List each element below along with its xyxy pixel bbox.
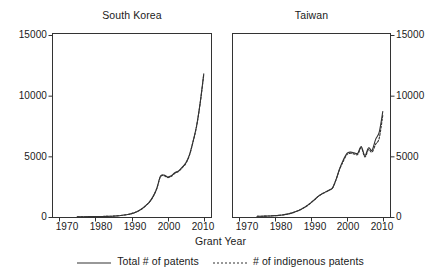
legend-label-indigenous: # of indigenous patents	[253, 255, 364, 267]
legend-line-dotted-icon	[213, 257, 247, 265]
chart-figure: South Korea Taiwan 15000 10000 5000 0 15…	[0, 0, 441, 279]
series-line-indigenous	[77, 74, 203, 216]
legend-label-total: Total # of patents	[117, 255, 199, 267]
panel-taiwan	[233, 34, 395, 222]
legend-entry-indigenous: # of indigenous patents	[213, 255, 364, 267]
series-line-total	[257, 111, 383, 216]
legend-line-solid-icon	[77, 257, 111, 265]
series-line-indigenous	[257, 115, 383, 216]
legend-entry-total: Total # of patents	[77, 255, 199, 267]
panel-south-korea	[49, 34, 212, 222]
chart-legend: Total # of patents # of indigenous paten…	[0, 252, 441, 270]
plot-canvas	[0, 0, 441, 279]
series-line-total	[77, 74, 203, 217]
